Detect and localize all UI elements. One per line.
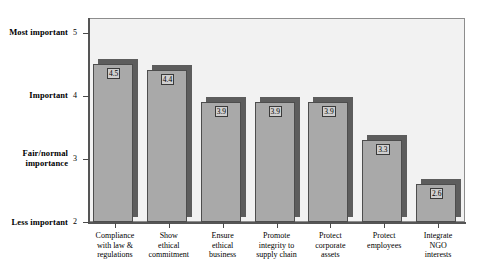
bar-face bbox=[147, 70, 187, 222]
y-axis-tick-label-line: Fair/normal bbox=[2, 148, 68, 158]
x-axis-tick-mark bbox=[438, 223, 439, 228]
x-axis-category-label: Promoteintegrity tosupply chain bbox=[246, 231, 308, 260]
y-axis-line bbox=[88, 18, 90, 223]
y-axis-tick-label: Most important bbox=[2, 27, 68, 37]
x-axis-tick-mark bbox=[384, 223, 385, 228]
bar-face bbox=[255, 102, 295, 222]
x-axis-tick-mark bbox=[223, 223, 224, 228]
x-axis-category-label-line: corporate bbox=[299, 241, 361, 251]
y-axis-tick-label: Fair/normalimportance bbox=[2, 148, 68, 168]
x-axis-category-label: Ensureethicalbusiness bbox=[192, 231, 254, 260]
bar-value-label: 4.4 bbox=[161, 74, 174, 85]
x-axis-category-label: IntegrateNGOinterests bbox=[407, 231, 469, 260]
y-axis-tick-number: 5 bbox=[70, 28, 80, 37]
x-axis-category-label-line: supply chain bbox=[246, 250, 308, 260]
x-axis-category-label: Showethicalcommitment bbox=[138, 231, 200, 260]
bar bbox=[147, 65, 192, 222]
x-axis-category-label: Protectemployees bbox=[353, 231, 415, 250]
x-axis-category-label-line: NGO bbox=[407, 241, 469, 251]
y-axis-tick-number: 3 bbox=[70, 154, 80, 163]
y-axis-tick-label-line: Important bbox=[2, 90, 68, 100]
x-axis-category-label-line: assets bbox=[299, 250, 361, 260]
x-axis-category-label-line: interests bbox=[407, 250, 469, 260]
bar bbox=[93, 59, 138, 222]
bar-chart: 5Most important4Important3Fair/normalimp… bbox=[0, 0, 478, 276]
x-axis-category-label-line: Ensure bbox=[192, 231, 254, 241]
x-axis-category-label-line: Integrate bbox=[407, 231, 469, 241]
y-axis-tick-label-line: Less important bbox=[2, 217, 68, 227]
y-axis-tick-number: 2 bbox=[70, 217, 80, 226]
x-axis-category-label-line: commitment bbox=[138, 250, 200, 260]
x-axis-category-label: Protectcorporateassets bbox=[299, 231, 361, 260]
bar-value-label: 2.6 bbox=[430, 188, 443, 199]
x-axis-category-label: Compliancewith law &regulations bbox=[84, 231, 146, 260]
x-axis-category-label-line: business bbox=[192, 250, 254, 260]
x-axis-category-label-line: Compliance bbox=[84, 231, 146, 241]
x-axis-category-label-line: integrity to bbox=[246, 241, 308, 251]
bar-value-label: 3.9 bbox=[215, 106, 228, 117]
x-axis-category-label-line: Show bbox=[138, 231, 200, 241]
y-axis-tick-mark bbox=[83, 159, 89, 160]
y-axis-tick-label-line: importance bbox=[2, 158, 68, 168]
bar-value-label: 3.9 bbox=[322, 106, 335, 117]
bar-value-label: 3.9 bbox=[269, 106, 282, 117]
y-axis-tick-mark bbox=[83, 222, 89, 223]
x-axis-category-label-line: regulations bbox=[84, 250, 146, 260]
y-axis-tick-number: 4 bbox=[70, 91, 80, 100]
y-axis-tick-mark bbox=[83, 96, 89, 97]
bar-value-label: 3.3 bbox=[376, 144, 389, 155]
x-axis-tick-mark bbox=[330, 223, 331, 228]
bar-face bbox=[201, 102, 241, 222]
x-axis-category-label-line: Protect bbox=[299, 231, 361, 241]
bar-value-label: 4.5 bbox=[107, 68, 120, 79]
x-axis-tick-mark bbox=[115, 223, 116, 228]
y-axis-tick-label: Less important bbox=[2, 217, 68, 227]
x-axis-category-label-line: employees bbox=[353, 241, 415, 251]
bar-face bbox=[93, 64, 133, 222]
bar bbox=[416, 179, 461, 222]
y-axis-tick-mark bbox=[83, 33, 89, 34]
x-axis-category-label-line: ethical bbox=[192, 241, 254, 251]
y-axis-tick-label: Important bbox=[2, 90, 68, 100]
y-axis-tick-label-line: Most important bbox=[2, 27, 68, 37]
x-axis-tick-mark bbox=[169, 223, 170, 228]
x-axis-tick-mark bbox=[277, 223, 278, 228]
x-axis-category-label-line: ethical bbox=[138, 241, 200, 251]
x-axis-category-label-line: Promote bbox=[246, 231, 308, 241]
x-axis-category-label-line: with law & bbox=[84, 241, 146, 251]
x-axis-category-label-line: Protect bbox=[353, 231, 415, 241]
bar-face bbox=[308, 102, 348, 222]
